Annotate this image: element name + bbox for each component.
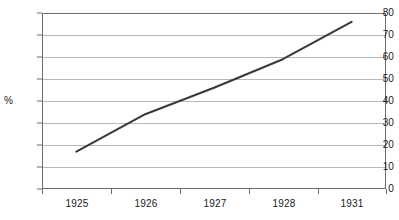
gridline — [43, 145, 385, 146]
x-tickmark — [42, 189, 43, 194]
x-tickmark — [386, 189, 387, 194]
y-tickmark — [37, 101, 42, 102]
y-tickmark — [37, 123, 42, 124]
x-tickmark — [180, 189, 181, 194]
y-tickmark — [37, 35, 42, 36]
gridline — [43, 123, 385, 124]
x-ticklabel: 1928 — [272, 198, 295, 209]
y-tickmark — [37, 145, 42, 146]
y-ticklabel: 20 — [383, 140, 394, 150]
y-ticklabel: 50 — [383, 74, 394, 84]
y-axis-title: % — [4, 96, 13, 106]
y-ticklabel: 70 — [383, 30, 394, 40]
x-ticklabel: 1927 — [203, 198, 226, 209]
y-ticklabel: 60 — [383, 52, 394, 62]
x-tickmark — [249, 189, 250, 194]
y-ticklabel: 40 — [383, 96, 394, 106]
y-tickmark — [37, 167, 42, 168]
x-tickmark — [111, 189, 112, 194]
gridline — [43, 101, 385, 102]
y-tickmark — [37, 79, 42, 80]
y-ticklabel: 80 — [383, 8, 394, 18]
y-ticklabel: 0 — [388, 184, 394, 194]
x-ticklabel: 1925 — [65, 198, 88, 209]
gridline — [43, 167, 385, 168]
y-tickmark — [37, 57, 42, 58]
y-tickmark — [37, 13, 42, 14]
plot-area — [42, 13, 386, 189]
gridline — [43, 79, 385, 80]
x-tickmark — [318, 189, 319, 194]
gridline — [43, 57, 385, 58]
line-chart-figure: 80 70 60 50 40 30 20 10 0 % 1925 1926 19… — [0, 0, 399, 220]
x-ticklabel: 1926 — [134, 198, 157, 209]
y-ticklabel: 30 — [383, 118, 394, 128]
y-ticklabel: 10 — [383, 162, 394, 172]
x-ticklabel: 1931 — [340, 198, 363, 209]
gridline — [43, 35, 385, 36]
